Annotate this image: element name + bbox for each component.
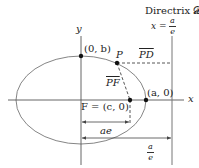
- directrix-equation-lhs: x =: [151, 22, 166, 31]
- ae-distance-label: ae: [100, 126, 112, 136]
- directrix-fraction-denominator: e: [170, 28, 175, 36]
- y-axis-label: y: [76, 24, 82, 34]
- right-vertex-label: (a, 0): [147, 88, 173, 98]
- pd-segment-label: PD: [139, 50, 154, 60]
- point-p-dot: [115, 61, 119, 65]
- directrix-equation-fraction: a e: [169, 17, 176, 36]
- x-axis-label: x: [188, 94, 194, 104]
- top-vertex-dot: [79, 54, 83, 58]
- right-vertex-dot: [144, 98, 148, 102]
- a-over-e-distance-label: a e: [147, 143, 154, 162]
- pf-segment-label: PF: [106, 78, 120, 88]
- a-over-e-numerator: a: [148, 143, 153, 151]
- a-over-e-denominator: e: [148, 154, 153, 162]
- ellipse-directrix-diagram: Directrix 𝓓 x = a e y x (0, b) P F = (c,…: [0, 0, 199, 168]
- top-vertex-text: (0, b): [84, 43, 111, 54]
- point-p-label: P: [116, 50, 123, 60]
- directrix-fraction-numerator: a: [170, 17, 175, 25]
- focus-label: F = (c, 0): [81, 102, 129, 112]
- top-vertex-label: (0, b): [84, 44, 111, 54]
- directrix-title: Directrix 𝓓: [145, 6, 199, 16]
